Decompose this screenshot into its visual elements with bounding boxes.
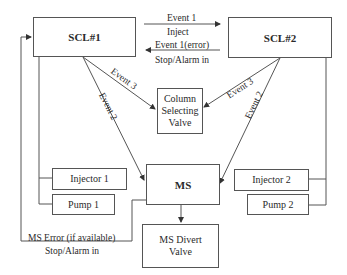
ms-box: MS bbox=[146, 164, 220, 205]
event1-label: Event 1 bbox=[167, 13, 196, 24]
stop-alarm-top-label: Stop/Alarm in bbox=[155, 55, 209, 66]
ms-divert-line1: MS Divert bbox=[159, 234, 202, 246]
ms-divert-line2: Valve bbox=[169, 246, 192, 258]
stop-alarm-bottom-label: Stop/Alarm in bbox=[45, 246, 99, 257]
injector2-label: Injector 2 bbox=[252, 174, 291, 186]
event1-error-label: Event 1(error) bbox=[155, 40, 209, 51]
pump2-box: Pump 2 bbox=[247, 194, 309, 215]
pump1-box: Pump 1 bbox=[52, 194, 115, 215]
pump1-label: Pump 1 bbox=[68, 199, 99, 211]
ms-error-label: MS Error (if available) bbox=[28, 233, 115, 244]
column-valve-line1: Column bbox=[164, 93, 196, 105]
column-valve-line3: Valve bbox=[169, 117, 192, 129]
ms-label: MS bbox=[175, 179, 192, 191]
ms-divert-valve-box: MS Divert Valve bbox=[142, 224, 219, 268]
inject-label: Inject bbox=[167, 27, 189, 38]
column-valve-line2: Selecting bbox=[161, 105, 198, 117]
scl1-label: SCL#1 bbox=[68, 31, 100, 43]
column-selecting-valve-box: Column Selecting Valve bbox=[157, 88, 203, 134]
pump2-label: Pump 2 bbox=[263, 199, 294, 211]
injector1-label: Injector 1 bbox=[70, 173, 109, 185]
injector2-box: Injector 2 bbox=[234, 169, 309, 191]
scl2-box: SCL#2 bbox=[228, 17, 332, 58]
scl1-box: SCL#1 bbox=[33, 17, 136, 57]
injector1-box: Injector 1 bbox=[52, 168, 127, 190]
scl2-label: SCL#2 bbox=[264, 32, 296, 44]
